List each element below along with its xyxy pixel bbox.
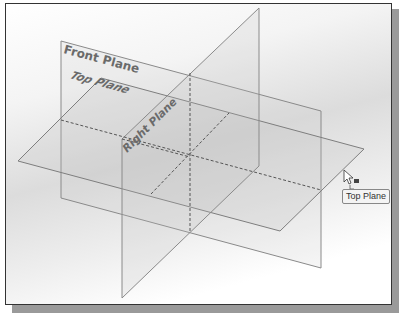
arrow-cursor-icon: [344, 170, 359, 189]
planes-canvas: Front Plane Top Plane Right Plane: [6, 4, 392, 305]
plane-tooltip: Top Plane: [342, 189, 390, 204]
graphics-viewport[interactable]: Front Plane Top Plane Right Plane: [5, 3, 392, 305]
